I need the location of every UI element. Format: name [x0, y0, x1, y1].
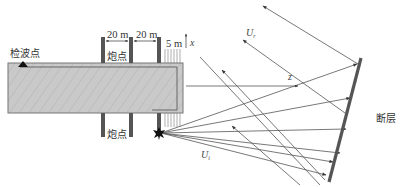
shot-label-top: 炮点 — [107, 50, 127, 62]
reflected-ray — [222, 70, 325, 180]
shot-hole-top-1 — [101, 37, 105, 63]
incident-ray — [161, 133, 326, 175]
reflected-ray — [200, 57, 320, 185]
z-axis-label: z — [287, 71, 292, 82]
spacing-label-3: 5 m — [166, 38, 182, 49]
spacing-label-1: 20 m — [107, 29, 128, 40]
shot-hole-bottom-1 — [101, 113, 105, 137]
fine-holes-top — [165, 49, 180, 63]
incident-ray — [161, 64, 357, 133]
reflected-wave-label: Ur — [246, 27, 256, 39]
reflected-ray — [232, 126, 300, 185]
fault-line — [329, 58, 361, 182]
incident-wave-label: Ui — [201, 149, 210, 161]
reflected-ray — [263, 6, 358, 64]
incident-ray — [161, 129, 346, 133]
shot-hole-bottom-2 — [129, 113, 133, 137]
x-axis-label: x — [189, 37, 195, 48]
seismic-diagram: 检波点 炮点 炮点 断层 20 m 20 m 5 m x z Ur Ui — [0, 0, 408, 187]
shot-hole-top-3 — [157, 37, 161, 63]
tunnel-block — [8, 63, 183, 113]
incident-ray — [161, 133, 340, 153]
geophone-label: 检波点 — [10, 47, 40, 59]
shot-label-bottom: 炮点 — [107, 128, 127, 140]
incident-ray — [161, 98, 350, 133]
shot-hole-top-2 — [129, 37, 133, 63]
spacing-label-2: 20 m — [136, 29, 157, 40]
incident-ray — [161, 133, 333, 162]
fault-label: 断层 — [376, 112, 396, 124]
fine-holes-bottom — [165, 113, 180, 127]
